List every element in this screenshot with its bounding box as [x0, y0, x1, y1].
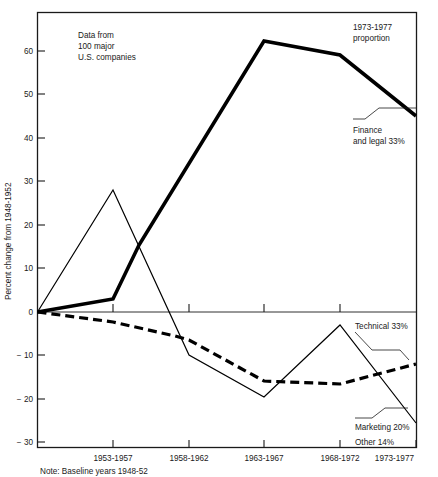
y-tick-label: − 10 [17, 351, 34, 360]
marketing-annotation: Marketing 20% [355, 408, 410, 432]
x-tick-label: 1958-1962 [169, 454, 209, 463]
y-tick-label: − 20 [17, 395, 34, 404]
marketing-label: Marketing 20% [355, 423, 410, 432]
figure-note: Note: Baseline years 1948-52 [40, 467, 148, 476]
finance-legal-annotation: Finance and legal 33% [353, 108, 416, 146]
series-line-finance-legal [38, 41, 417, 312]
y-axis-title: Percent change from 1948-1952 [4, 182, 13, 300]
y-tick-marks [38, 51, 46, 442]
x-tick-label: 1973-1977 [375, 454, 415, 463]
proportion-header-line1: 1973-1977 [353, 23, 393, 32]
y-tick-label: 0 [28, 308, 33, 317]
y-tick-label: 10 [24, 264, 34, 273]
finance-legal-label-line2: and legal 33% [353, 137, 405, 146]
y-tick-label: 40 [24, 134, 34, 143]
source-annotation: Data from 100 major U.S. companies [78, 31, 136, 62]
y-tick-label: 30 [24, 177, 34, 186]
chart-svg: 60 50 40 30 20 10 0 − 10 − 20 − 30 Perce… [0, 0, 438, 477]
y-tick-label: 20 [24, 221, 34, 230]
marketing-leader-line [355, 408, 408, 418]
source-annotation-line1: Data from [78, 31, 114, 40]
y-tick-label: 60 [24, 47, 34, 56]
x-tick-label: 1968-1972 [320, 454, 360, 463]
source-annotation-line2: 100 major [78, 42, 115, 51]
plot-frame [38, 13, 417, 448]
x-tick-marks-zero [113, 304, 340, 312]
finance-legal-label-line1: Finance [353, 126, 383, 135]
y-tick-label: − 30 [17, 438, 34, 447]
technical-label: Technical 33% [355, 322, 408, 331]
technical-leader-line [355, 332, 409, 360]
y-tick-label: 50 [24, 90, 34, 99]
chart-figure: 60 50 40 30 20 10 0 − 10 − 20 − 30 Perce… [0, 0, 438, 477]
y-tick-labels: 60 50 40 30 20 10 0 − 10 − 20 − 30 [17, 47, 34, 447]
x-tick-label: 1963-1967 [244, 454, 284, 463]
proportion-header-line2: proportion [353, 34, 390, 43]
series-line-marketing-other [38, 190, 417, 423]
x-tick-labels: 1953-1957 1958-1962 1963-1967 1968-1972 … [93, 454, 414, 463]
x-tick-label: 1953-1957 [93, 454, 133, 463]
other-label: Other 14% [355, 438, 394, 447]
source-annotation-line3: U.S. companies [78, 53, 136, 62]
proportion-header-annotation: 1973-1977 proportion [353, 23, 393, 43]
